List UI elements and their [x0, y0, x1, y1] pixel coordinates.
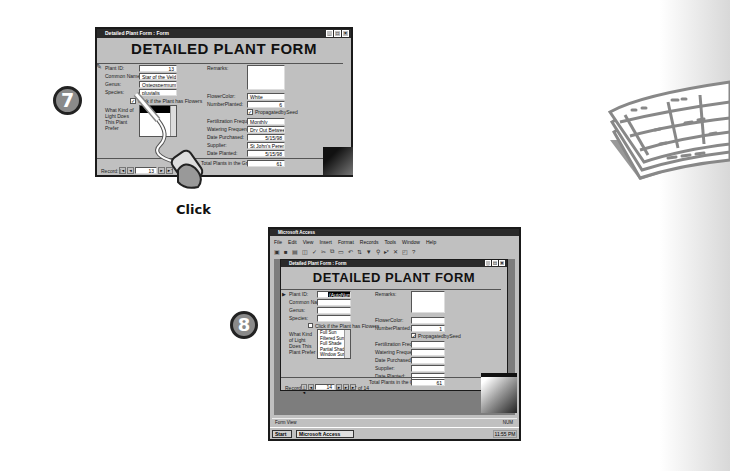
toolbar: ▣■▤◫✓✂⧉▭↶⇅▼⚲▸*✕◰?: [274, 247, 515, 256]
spelling-icon[interactable]: ✓: [312, 248, 317, 255]
menu-bar: File Edit View Insert Format Records Too…: [274, 239, 436, 245]
microsoft-access-window: Microsoft Access File Edit View Insert F…: [268, 227, 521, 441]
record-number-field-2[interactable]: 14: [315, 384, 335, 390]
menu-view[interactable]: View: [303, 239, 314, 245]
genus-label-2: Genus:: [289, 307, 305, 313]
genus-label: Genus:: [105, 81, 121, 87]
watering-field-2[interactable]: [411, 349, 445, 356]
propagated-label-2: PropagatedbySeed: [418, 333, 461, 339]
copy-icon[interactable]: ⧉: [330, 248, 334, 255]
date-purchased-field-2[interactable]: [411, 357, 445, 364]
help-icon[interactable]: ?: [412, 249, 415, 255]
form-maximize-button[interactable]: □: [492, 260, 498, 266]
undo-icon[interactable]: ↶: [348, 248, 353, 255]
cut-icon[interactable]: ✂: [321, 248, 326, 255]
flower-color-label-2: FlowerColor:: [375, 317, 403, 323]
menu-window[interactable]: Window: [402, 239, 420, 245]
supplier-field-2[interactable]: [411, 365, 445, 372]
menu-insert[interactable]: Insert: [319, 239, 332, 245]
common-name-field[interactable]: Star of the Veldt: [139, 73, 177, 80]
plant-id-label: Plant ID:: [105, 65, 124, 71]
sort-asc-icon[interactable]: ⇅: [357, 248, 362, 255]
form-title: DETAILED PLANT FORM: [97, 40, 351, 57]
paste-icon[interactable]: ▭: [338, 248, 344, 255]
status-bar: Form ViewNUM: [272, 418, 517, 426]
detailed-plant-form-window-2: Detailed Plant Form : Form _□× DETAILED …: [280, 259, 508, 391]
plant-id-label-2: Plant ID:: [289, 291, 308, 297]
record-count: of 14: [358, 385, 369, 391]
light-preference-listbox-2[interactable]: Full Sun Filtered Sun Full Shade Partial…: [317, 329, 351, 359]
form-close-button[interactable]: ×: [499, 260, 505, 266]
has-flowers-checkbox-2[interactable]: [308, 323, 313, 328]
record-pointer-icon: ▶: [282, 291, 286, 297]
menu-file[interactable]: File: [274, 239, 282, 245]
fertilization-dropdown-2[interactable]: [411, 341, 445, 348]
total-plants-field: 61: [247, 160, 285, 167]
prev-record-button-2[interactable]: ◄: [308, 384, 314, 390]
menu-help[interactable]: Help: [426, 239, 436, 245]
total-plants-field-2: 61: [411, 379, 445, 386]
date-planted-field[interactable]: 5/15/98: [247, 150, 285, 157]
preview-icon[interactable]: ◫: [302, 248, 308, 255]
delete-record-icon[interactable]: ✕: [393, 248, 398, 255]
mdi-workspace: Detailed Plant Form : Form _□× DETAILED …: [274, 259, 515, 415]
propagated-checkbox-2[interactable]: ✓: [411, 333, 416, 338]
supplier-field[interactable]: St John's Perennia: [247, 142, 285, 149]
species-field-2[interactable]: [317, 315, 351, 322]
number-planted-field-2[interactable]: 1: [411, 325, 445, 332]
menu-records[interactable]: Records: [360, 239, 379, 245]
remarks-label: Remarks:: [207, 65, 228, 71]
taskbar: Start Microsoft Access 11:55 PM: [270, 427, 519, 439]
propagated-label: PropagatedbySeed: [255, 109, 298, 115]
menu-edit[interactable]: Edit: [288, 239, 297, 245]
find-icon[interactable]: ⚲: [376, 248, 380, 255]
propagated-checkbox[interactable]: ✓: [247, 109, 253, 115]
view-icon[interactable]: ▣: [274, 248, 280, 255]
menu-tools[interactable]: Tools: [384, 239, 396, 245]
flower-color-field-2[interactable]: [411, 317, 445, 324]
form-minimize-button[interactable]: _: [485, 260, 491, 266]
plant-id-field-2[interactable]: (AutoNumber): [317, 291, 351, 298]
date-purchased-label-2: Date Purchased:: [375, 357, 412, 363]
date-purchased-field[interactable]: 5/15/98: [247, 134, 285, 141]
autonumber-value: (AutoNumber): [328, 292, 351, 298]
genus-field[interactable]: Osteospermum: [139, 81, 177, 88]
flower-color-field[interactable]: White: [247, 93, 285, 100]
record-label: Record:: [101, 168, 119, 174]
footer-divider-2: [281, 377, 507, 378]
filter-icon[interactable]: ▼: [366, 249, 372, 255]
window-title: Detailed Plant Form : Form: [105, 30, 169, 36]
remarks-field[interactable]: [247, 65, 285, 90]
genus-field-2[interactable]: [317, 307, 351, 314]
first-record-button-2[interactable]: |◄: [301, 384, 307, 390]
plant-id-field[interactable]: 13: [139, 65, 177, 72]
watering-field[interactable]: Dry Out Between W: [247, 126, 285, 133]
num-lock-indicator: NUM: [503, 419, 513, 427]
menu-format[interactable]: Format: [338, 239, 354, 245]
number-planted-field[interactable]: 6: [247, 101, 285, 108]
save-icon[interactable]: ■: [284, 249, 288, 255]
form-title-2: DETAILED PLANT FORM: [281, 270, 507, 285]
taskbar-access-button[interactable]: Microsoft Access: [296, 430, 354, 438]
maximize-button[interactable]: □: [334, 30, 341, 37]
last-record-button-2[interactable]: ►|: [343, 384, 349, 390]
first-record-button[interactable]: |◄: [119, 167, 126, 174]
minimize-button[interactable]: _: [326, 30, 333, 37]
listbox-scrollbar-2[interactable]: [344, 330, 350, 358]
database-icon[interactable]: ◰: [402, 248, 408, 255]
form-window-title: Detailed Plant Form : Form: [289, 261, 347, 266]
start-button[interactable]: Start: [272, 430, 292, 438]
remarks-label-2: Remarks:: [375, 291, 396, 297]
close-button[interactable]: ×: [342, 30, 349, 37]
new-record-button-2[interactable]: ►*: [350, 384, 356, 390]
divider: [97, 63, 343, 64]
common-name-field-2[interactable]: [317, 299, 351, 306]
number-planted-label-2: NumberPlanted:: [375, 325, 411, 331]
new-record-icon[interactable]: ▸*: [384, 248, 389, 255]
supplier-label-2: Supplier:: [375, 365, 395, 371]
print-icon[interactable]: ▤: [292, 248, 298, 255]
next-record-button-2[interactable]: ►: [336, 384, 342, 390]
assistant-clip: [481, 373, 517, 413]
remarks-field-2[interactable]: [411, 291, 445, 313]
fertilization-dropdown[interactable]: Monthly: [247, 118, 285, 125]
